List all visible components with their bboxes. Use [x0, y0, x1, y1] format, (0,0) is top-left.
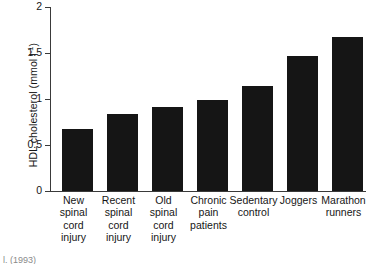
x-axis-label: Chronicpainpatients [183, 194, 234, 231]
x-axis-label-line: Joggers [273, 194, 324, 206]
x-axis-label-line: cord [138, 219, 189, 231]
x-axis-label-line: cord [93, 219, 144, 231]
y-axis-tick-label: 0.5 [2, 139, 42, 150]
x-axis-label-line: cord [48, 219, 99, 231]
bar [107, 114, 138, 191]
x-axis-label-line: Recent [93, 194, 144, 206]
x-axis-label: Oldspinalcordinjury [138, 194, 189, 244]
bar-chart: HDL cholesterol (mmol l-1) 21.510.50 New… [0, 0, 368, 268]
bar [332, 37, 363, 191]
bar [197, 100, 228, 191]
x-axis-label: Newspinalcordinjury [48, 194, 99, 244]
x-axis-label-line: pain [183, 206, 234, 218]
x-axis-label-line: injury [138, 231, 189, 243]
y-axis-tick-label: 1.5 [2, 47, 42, 58]
y-axis-tick-mark [45, 99, 50, 100]
y-axis-tick-label: 0 [2, 185, 42, 196]
x-axis-label-line: spinal [138, 206, 189, 218]
x-axis-label-line: control [228, 206, 279, 218]
x-axis-line [50, 191, 366, 192]
y-axis-tick-label: 1 [2, 93, 42, 104]
x-axis-label-line: spinal [48, 206, 99, 218]
y-axis-tick-label: 2 [2, 1, 42, 12]
footer-citation: l. (1993) [3, 255, 36, 264]
y-axis-tick-mark [45, 7, 50, 8]
bar [242, 86, 273, 191]
bar [62, 129, 93, 191]
bar [152, 107, 183, 191]
x-axis-label-line: Chronic [183, 194, 234, 206]
y-axis-title: HDL cholesterol (mmol l-1) [27, 10, 39, 200]
x-axis-label-line: New [48, 194, 99, 206]
x-axis-label-line: runners [318, 206, 368, 218]
x-axis-label-line: spinal [93, 206, 144, 218]
y-axis-title-text: HDL cholesterol (mmol l [27, 53, 39, 167]
y-axis-tick-mark [45, 53, 50, 54]
x-axis-label: Sedentarycontrol [228, 194, 279, 219]
x-axis-label: Recentspinalcordinjury [93, 194, 144, 244]
x-axis-label-line: Old [138, 194, 189, 206]
y-axis-tick-mark [45, 191, 50, 192]
x-axis-labels: NewspinalcordinjuryRecentspinalcordinjur… [51, 194, 366, 250]
y-axis-tick-mark [45, 145, 50, 146]
x-axis-label-line: Marathon [318, 194, 368, 206]
x-axis-label: Joggers [273, 194, 324, 206]
bar [287, 56, 318, 191]
x-axis-label-line: injury [48, 231, 99, 243]
x-axis-label-line: Sedentary [228, 194, 279, 206]
x-axis-label-line: injury [93, 231, 144, 243]
plot-area [51, 7, 366, 191]
x-axis-label-line: patients [183, 219, 234, 231]
x-axis-label: Marathonrunners [318, 194, 368, 219]
